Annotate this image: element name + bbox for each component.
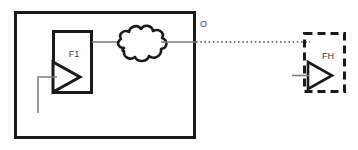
block-diagram: F1 O FH [0,0,358,150]
diagram-canvas: F1 O FH [0,0,358,150]
o-port-label: O [200,19,207,29]
network-cloud-icon [118,26,166,61]
amplifier-triangle-icon-fh [308,62,332,89]
outer-enclosure-box [16,13,195,138]
fh-block-label: FH [322,51,334,61]
f1-block-label: F1 [69,49,80,59]
